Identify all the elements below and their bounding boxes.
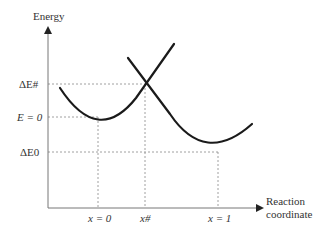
zero-energy-label: E = 0 bbox=[16, 111, 43, 123]
product-curve bbox=[128, 58, 252, 143]
y-axis-label: Energy bbox=[33, 10, 65, 22]
energy-diagram: Energy ΔE# E = 0 ΔE0 x = 0 x# x = 1 Reac… bbox=[0, 0, 324, 235]
reactant-curve bbox=[60, 44, 174, 120]
xhash-tick-label: x# bbox=[139, 212, 151, 224]
x-axis-label-line2: coordinate bbox=[266, 208, 313, 220]
reaction-energy-label: ΔE0 bbox=[20, 146, 40, 158]
x1-tick-label: x = 1 bbox=[207, 212, 231, 224]
activation-energy-label: ΔE# bbox=[19, 78, 39, 90]
x0-tick-label: x = 0 bbox=[87, 212, 112, 224]
x-axis-label-line1: Reaction bbox=[266, 195, 306, 207]
